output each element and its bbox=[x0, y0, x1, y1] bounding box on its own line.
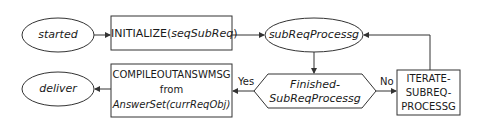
finished-label-line1: Finished- bbox=[254, 78, 376, 91]
initialize-label-italic: seqSubReq bbox=[171, 27, 233, 40]
initialize-label-end: ) bbox=[233, 27, 237, 40]
compile-label-line2: from bbox=[111, 83, 232, 96]
subreqprocessg-label: subReqProcessg bbox=[265, 28, 363, 41]
initialize-label-plain: INITIALIZE( bbox=[111, 27, 171, 40]
edge-iterate-subreq bbox=[364, 35, 430, 70]
edge-label-yes: Yes bbox=[238, 76, 254, 88]
finished-label-line2: SubReqProcessg bbox=[254, 92, 376, 105]
compile-label-line1: COMPILEOUTANSWMSG bbox=[111, 68, 232, 81]
deliver-label: deliver bbox=[22, 82, 94, 95]
iterate-label-line1: ITERATE- bbox=[397, 72, 460, 85]
iterate-label-line3: PROCESSG bbox=[397, 100, 460, 113]
initialize-label: INITIALIZE(seqSubReq) bbox=[111, 27, 232, 40]
compile-label-line3: AnswerSet(currReqObj) bbox=[111, 98, 232, 111]
edge-label-no: No bbox=[380, 76, 394, 88]
iterate-label-line2: SUBREQ- bbox=[397, 86, 460, 99]
started-label: started bbox=[22, 28, 94, 41]
